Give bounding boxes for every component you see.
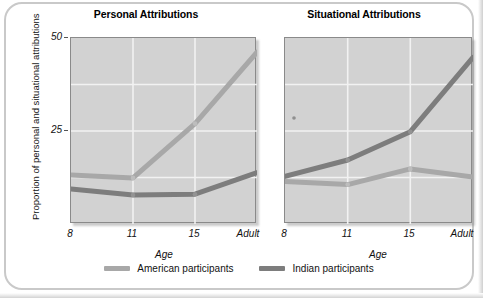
x-tick-11-left: 11 xyxy=(118,228,146,239)
x-tick-8-left: 8 xyxy=(56,228,84,239)
x-axis-label-left: Age xyxy=(124,249,204,260)
y-tick-50-left: 50 xyxy=(36,31,62,42)
panel-situational-attributions: Situational Attributions xyxy=(252,8,476,270)
series-line-indian-situational xyxy=(285,57,473,176)
x-tick-15-left: 15 xyxy=(180,228,208,239)
x-tick-8-right: 8 xyxy=(270,228,298,239)
figure-frame: Personal Attributions Proportion of pers… xyxy=(4,2,474,290)
legend-swatch-indian xyxy=(259,266,285,271)
chart-legend: American participants Indian participant… xyxy=(6,263,472,274)
legend-label-indian: Indian participants xyxy=(292,263,373,274)
x-axis-label-right: Age xyxy=(338,249,418,260)
panel-personal-attributions: Personal Attributions Proportion of pers… xyxy=(6,8,256,270)
plot-area-personal xyxy=(70,37,256,223)
panel-title-situational: Situational Attributions xyxy=(252,8,476,20)
gridlines-horizontal-right xyxy=(285,85,473,178)
plot-svg-personal xyxy=(71,38,257,224)
panel-title-personal: Personal Attributions xyxy=(36,8,256,20)
y-tick-25-left: 25 xyxy=(36,124,62,135)
plot-area-situational xyxy=(284,37,472,223)
page-edge-right xyxy=(478,0,483,298)
print-artifact-dot xyxy=(292,116,296,120)
legend-item-indian: Indian participants xyxy=(259,263,373,274)
y-tick-mark-50-left xyxy=(64,37,68,38)
x-tick-adult-right: Adult xyxy=(442,228,482,239)
series-line-american-personal xyxy=(71,52,257,178)
gridlines-horizontal-left xyxy=(71,85,257,178)
y-tick-mark-25-left xyxy=(64,130,68,131)
legend-swatch-american xyxy=(104,266,130,271)
legend-label-american: American participants xyxy=(137,263,233,274)
y-axis-label-text: Proportion of personal and situational a… xyxy=(30,14,41,221)
x-tick-15-right: 15 xyxy=(395,228,423,239)
page-edge-bottom xyxy=(0,293,483,298)
plot-svg-situational xyxy=(285,38,473,224)
legend-item-american: American participants xyxy=(104,263,233,274)
x-tick-11-right: 11 xyxy=(333,228,361,239)
